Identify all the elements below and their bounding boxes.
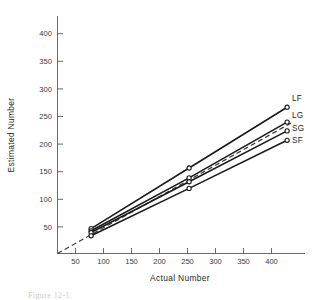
figure-container: 50 100 150 200 250 300 350 400 50 100 15… bbox=[0, 0, 318, 300]
y-axis-tick-labels: 50 100 150 200 250 300 350 400 bbox=[39, 29, 52, 231]
marker-LF-end bbox=[285, 105, 289, 109]
y-tick-label-2: 150 bbox=[39, 167, 52, 176]
marker-LF-mid bbox=[187, 166, 191, 170]
series-lines bbox=[91, 107, 287, 236]
y-tick-label-0: 50 bbox=[44, 223, 52, 232]
axes-spines bbox=[58, 16, 306, 254]
x-tick-label-6: 350 bbox=[237, 257, 250, 266]
marker-SF-start bbox=[89, 234, 93, 238]
y-tick-label-4: 250 bbox=[39, 112, 52, 121]
x-tick-label-5: 300 bbox=[209, 257, 222, 266]
series-label-LF: LF bbox=[292, 94, 302, 103]
x-tick-label-1: 100 bbox=[97, 257, 110, 266]
x-axis-ticks bbox=[76, 248, 272, 254]
marker-LG-end bbox=[285, 120, 289, 124]
y-axis-title: Estimated Number bbox=[6, 98, 16, 173]
y-tick-label-7: 400 bbox=[39, 29, 52, 38]
series-label-SG: SG bbox=[292, 124, 304, 133]
y-tick-label-6: 350 bbox=[39, 57, 52, 66]
marker-SG-end bbox=[285, 129, 289, 133]
marker-SF-end bbox=[285, 138, 289, 142]
series-end-labels: LF LG SG SF bbox=[292, 94, 304, 145]
y-axis-ticks bbox=[58, 34, 64, 227]
chart-canvas: 50 100 150 200 250 300 350 400 50 100 15… bbox=[0, 0, 318, 300]
x-tick-label-3: 200 bbox=[153, 257, 166, 266]
y-tick-label-3: 200 bbox=[39, 140, 52, 149]
y-tick-label-5: 300 bbox=[39, 85, 52, 94]
marker-SF-mid bbox=[187, 186, 191, 190]
x-tick-label-0: 50 bbox=[71, 257, 79, 266]
x-axis-tick-labels: 50 100 150 200 250 300 350 400 bbox=[71, 257, 278, 266]
x-tick-label-7: 400 bbox=[265, 257, 278, 266]
x-tick-label-4: 250 bbox=[181, 257, 194, 266]
x-tick-label-2: 150 bbox=[125, 257, 138, 266]
figure-caption: Figure 12-1. bbox=[28, 291, 72, 300]
series-label-LG: LG bbox=[292, 111, 303, 120]
y-tick-label-1: 100 bbox=[39, 195, 52, 204]
marker-SG-mid bbox=[187, 180, 191, 184]
series-label-SF: SF bbox=[292, 136, 303, 145]
x-axis-title: Actual Number bbox=[150, 273, 210, 283]
